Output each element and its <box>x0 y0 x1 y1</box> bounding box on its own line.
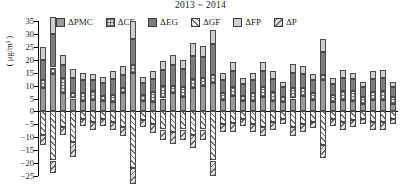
bar-segment-ΔEG <box>360 87 365 97</box>
bar-group[interactable] <box>270 21 275 176</box>
bar-group[interactable] <box>350 21 355 176</box>
bar-segment-ΔGF <box>220 111 225 124</box>
bar-segment-ΔEG <box>320 52 325 75</box>
bar-group[interactable] <box>70 21 75 176</box>
bar-group[interactable] <box>160 21 165 176</box>
bar-segment-ΔPMC <box>50 74 55 111</box>
bar-group[interactable] <box>330 21 335 176</box>
bar-group[interactable] <box>250 21 255 176</box>
y-tick-label: 10 <box>26 81 35 91</box>
bar-segment-ΔGF <box>80 111 85 119</box>
bar-segment-ΔP <box>160 130 165 140</box>
bar-segment-ΔP <box>320 145 325 158</box>
bar-group[interactable] <box>230 21 235 176</box>
bar-group[interactable] <box>240 21 245 176</box>
bar-group[interactable] <box>390 21 395 176</box>
bar-group[interactable] <box>40 21 45 176</box>
bar-group[interactable] <box>190 21 195 176</box>
bar-segment-ΔFP <box>300 66 305 74</box>
bar-group[interactable] <box>180 21 185 176</box>
bar-segment-ΔP <box>130 168 135 184</box>
bar-segment-ΔGF <box>270 111 275 121</box>
bar-segment-ΔCE <box>270 92 275 101</box>
bar-segment-ΔCE <box>120 88 125 93</box>
bar-segment-ΔFP <box>130 21 135 39</box>
bar-segment-ΔGF <box>350 111 355 120</box>
plot-area: 35302520151050−5−10−15−20−25 <box>38 21 398 176</box>
bar-group[interactable] <box>290 21 295 176</box>
bar-group[interactable] <box>260 21 265 176</box>
bar-group[interactable] <box>100 21 105 176</box>
y-tick-mark <box>34 124 38 125</box>
bar-group[interactable] <box>170 21 175 176</box>
bar-segment-ΔFP <box>340 70 345 78</box>
bar-segment-ΔEG <box>80 80 85 93</box>
bar-segment-ΔEG <box>280 87 285 97</box>
bar-segment-ΔP <box>180 130 185 140</box>
bar-group[interactable] <box>130 21 135 176</box>
bar-segment-ΔPMC <box>330 102 335 111</box>
bar-segment-ΔCE <box>40 80 45 88</box>
bar-segment-ΔGF <box>130 111 135 168</box>
bar-segment-ΔCE <box>290 88 295 98</box>
bar-segment-ΔP <box>290 127 295 136</box>
bar-segment-ΔGF <box>330 111 335 119</box>
bar-segment-ΔGF <box>170 111 175 132</box>
y-tick-mark <box>34 150 38 151</box>
bar-group[interactable] <box>310 21 315 176</box>
bar-segment-ΔGF <box>340 111 345 121</box>
bar-segment-ΔEG <box>380 78 385 91</box>
bar-segment-ΔP <box>100 119 105 125</box>
bar-group[interactable] <box>370 21 375 176</box>
bar-group[interactable] <box>360 21 365 176</box>
bar-segment-ΔPMC <box>150 102 155 111</box>
bar-segment-ΔGF <box>320 111 325 145</box>
y-tick-label: −15 <box>21 145 34 155</box>
bar-group[interactable] <box>150 21 155 176</box>
bar-segment-ΔP <box>250 124 255 132</box>
bar-segment-ΔEG <box>250 80 255 93</box>
bar-segment-ΔFP <box>60 55 65 65</box>
bar-segment-ΔP <box>270 122 275 130</box>
bar-segment-ΔGF <box>370 111 375 121</box>
bar-segment-ΔP <box>330 119 335 125</box>
bar-segment-ΔP <box>230 123 235 132</box>
bar-segment-ΔEG <box>90 80 95 90</box>
bar-segment-ΔEG <box>240 84 245 96</box>
bar-group[interactable] <box>140 21 145 176</box>
y-tick-mark <box>34 86 38 87</box>
bar-group[interactable] <box>380 21 385 176</box>
bar-group[interactable] <box>50 21 55 176</box>
bar-segment-ΔP <box>70 142 75 156</box>
bar-segment-ΔFP <box>270 71 275 79</box>
bar-group[interactable] <box>80 21 85 176</box>
bar-segment-ΔCE <box>100 96 105 101</box>
bar-group[interactable] <box>320 21 325 176</box>
bar-group[interactable] <box>210 21 215 176</box>
bar-segment-ΔPMC <box>380 100 385 112</box>
bar-group[interactable] <box>110 21 115 176</box>
bar-group[interactable] <box>300 21 305 176</box>
bar-segment-ΔP <box>360 119 365 124</box>
bar-group[interactable] <box>340 21 345 176</box>
bar-segment-ΔCE <box>330 95 335 103</box>
bar-segment-ΔCE <box>380 91 385 100</box>
bar-group[interactable] <box>280 21 285 176</box>
bar-segment-ΔFP <box>210 30 215 44</box>
bar-segment-ΔP <box>390 119 395 124</box>
bar-segment-ΔEG <box>70 78 75 94</box>
y-tick-mark <box>34 34 38 35</box>
bar-group[interactable] <box>200 21 205 176</box>
bar-segment-ΔPMC <box>190 88 195 111</box>
bar-segment-ΔPMC <box>300 96 305 112</box>
bar-segment-ΔGF <box>380 111 385 121</box>
bar-group[interactable] <box>120 21 125 176</box>
bar-group[interactable] <box>60 21 65 176</box>
bar-segment-ΔGF <box>230 111 235 123</box>
bar-group[interactable] <box>220 21 225 176</box>
bar-group[interactable] <box>90 21 95 176</box>
bar-segment-ΔGF <box>160 111 165 129</box>
bar-segment-ΔCE <box>390 97 395 103</box>
bar-segment-ΔGF <box>90 111 95 121</box>
bar-segment-ΔEG <box>210 44 215 75</box>
